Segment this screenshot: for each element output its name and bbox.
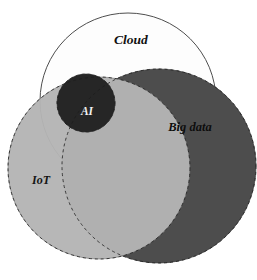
- venn-label-cloud: Cloud: [114, 32, 148, 47]
- venn-label-big-data: Big data: [167, 120, 211, 134]
- venn-diagram-canvas: Cloud Big data IoT AI: [0, 0, 257, 280]
- venn-diagram-figure: Cloud Big data IoT AI: [0, 0, 257, 280]
- venn-label-iot: IoT: [31, 173, 51, 187]
- venn-label-ai: AI: [80, 105, 94, 117]
